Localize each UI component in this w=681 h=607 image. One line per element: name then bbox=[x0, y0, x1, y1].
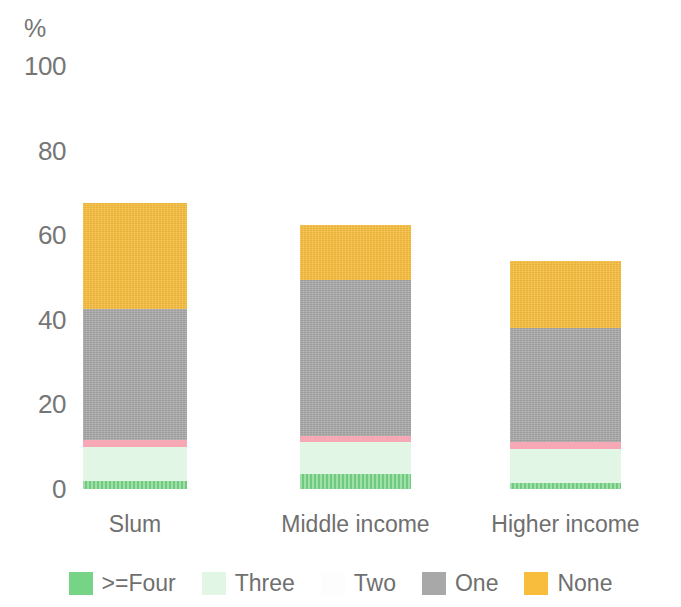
stacked-bar-chart: % 100806040200 SlumMiddle incomeHigher i… bbox=[0, 0, 681, 607]
legend-label: None bbox=[557, 570, 612, 597]
legend-swatch-icon-one bbox=[422, 572, 446, 595]
bar-segment-two bbox=[510, 442, 621, 448]
legend-swatch-icon-three bbox=[202, 572, 226, 595]
legend-label: >=Four bbox=[102, 570, 176, 597]
legend-label: Three bbox=[235, 570, 295, 597]
legend-label: One bbox=[455, 570, 498, 597]
legend-swatch-icon-none bbox=[524, 572, 548, 595]
bar-segment-none bbox=[300, 225, 411, 280]
legend-swatch-icon-four bbox=[69, 572, 93, 595]
bar-segment-one bbox=[300, 280, 411, 437]
legend-swatch-icon-two bbox=[321, 572, 345, 595]
x-axis-label-higher-income: Higher income bbox=[450, 511, 681, 538]
bar-segment-one bbox=[510, 328, 621, 442]
bar-segment-four-plus bbox=[83, 481, 187, 489]
legend-item-none[interactable]: None bbox=[524, 570, 612, 597]
bar-segment-three bbox=[300, 442, 411, 474]
bar-segment-four-plus bbox=[510, 483, 621, 489]
x-axis-label-middle-income: Middle income bbox=[240, 511, 471, 538]
chart-legend: >=FourThreeTwoOneNone bbox=[0, 566, 681, 600]
legend-label: Two bbox=[354, 570, 396, 597]
bar-segment-two bbox=[300, 436, 411, 442]
bar-segment-none bbox=[83, 203, 187, 309]
x-axis-label-slum: Slum bbox=[23, 511, 247, 538]
legend-item-two[interactable]: Two bbox=[321, 570, 396, 597]
bar-segment-three bbox=[83, 447, 187, 481]
legend-item-one[interactable]: One bbox=[422, 570, 498, 597]
legend-item-three[interactable]: Three bbox=[202, 570, 295, 597]
legend-item-four[interactable]: >=Four bbox=[69, 570, 176, 597]
bar-segment-four-plus bbox=[300, 474, 411, 489]
bar-segment-three bbox=[510, 449, 621, 483]
bar-segment-one bbox=[83, 309, 187, 440]
bar-segment-none bbox=[510, 261, 621, 329]
bar-segment-two bbox=[83, 440, 187, 446]
